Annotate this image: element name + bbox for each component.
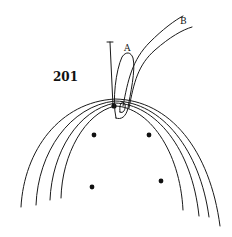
loop-a xyxy=(114,53,133,119)
line-drawing xyxy=(0,0,232,237)
reference-numeral: 201 xyxy=(53,71,78,83)
arch-2 xyxy=(36,101,209,217)
label-a: A xyxy=(124,44,131,53)
dot-upper-left xyxy=(92,133,97,138)
label-b: B xyxy=(180,17,187,26)
patent-figure: 201 A B xyxy=(0,0,232,237)
needle-shaft xyxy=(110,42,113,106)
dot-lower-left xyxy=(90,185,95,190)
dots xyxy=(90,133,164,190)
strand-b-lower xyxy=(129,27,192,108)
dot-lower-right xyxy=(159,179,164,184)
loop-a-outer xyxy=(114,53,133,119)
dot-upper-right xyxy=(147,133,152,138)
